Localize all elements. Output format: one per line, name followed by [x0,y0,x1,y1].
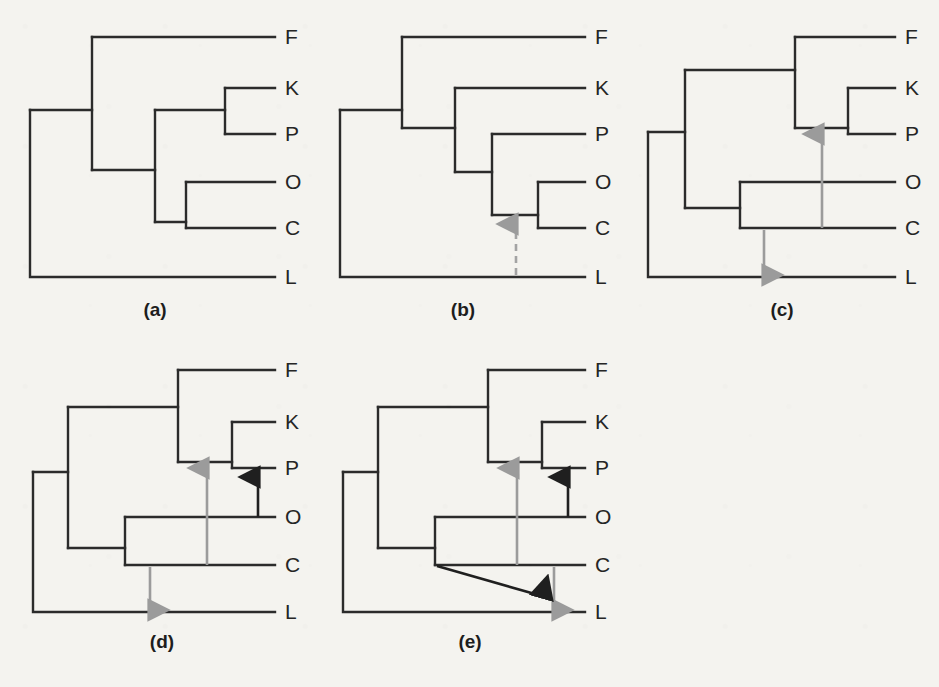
tip-label-P: P [595,456,609,479]
panel-caption-a: (a) [143,299,166,320]
panel-b: F K P O C L (b) [340,25,611,320]
panel-e-root-branch [343,472,585,612]
tip-label-P: P [285,456,299,479]
tip-label-P: P [905,122,919,145]
tip-label-L: L [595,265,607,288]
phylogeny-figure: F K P O C L (a) [0,0,939,687]
tip-label-O: O [595,505,611,528]
tip-label-P: P [595,122,609,145]
panel-caption-b: (b) [451,299,475,320]
tip-label-C: C [905,216,920,239]
panel-e: F K P O C L (e) [343,358,611,652]
tip-label-F: F [595,358,608,381]
panel-c: F K P O C L (c) [648,25,921,320]
phylogeny-svg: F K P O C L (a) [0,0,939,687]
tip-label-L: L [285,265,297,288]
tip-label-C: C [285,553,300,576]
tip-label-C: C [285,216,300,239]
panel-d: F K P O C L (d) [33,358,301,652]
tip-label-F: F [285,358,298,381]
panel-caption-c: (c) [770,299,793,320]
tip-label-O: O [285,505,301,528]
tip-label-K: K [595,76,609,99]
tip-label-K: K [905,76,919,99]
tip-label-L: L [595,600,607,623]
tip-label-O: O [595,170,611,193]
tip-label-F: F [285,25,298,48]
tip-label-L: L [285,600,297,623]
transfer-arrow-OC-diagonal-to-L [437,566,542,596]
tip-label-K: K [595,410,609,433]
tip-label-L: L [905,265,917,288]
tip-label-K: K [285,76,299,99]
panel-d-root-branch [33,472,275,612]
panel-caption-d: (d) [150,631,174,652]
tip-label-O: O [285,170,301,193]
tip-label-P: P [285,122,299,145]
tip-label-C: C [595,216,610,239]
tip-label-K: K [285,410,299,433]
panel-caption-e: (e) [458,631,481,652]
tip-label-F: F [595,25,608,48]
tip-label-O: O [905,170,921,193]
panel-a: F K P O C L (a) [30,25,301,320]
tip-label-F: F [905,25,918,48]
tip-label-C: C [595,553,610,576]
